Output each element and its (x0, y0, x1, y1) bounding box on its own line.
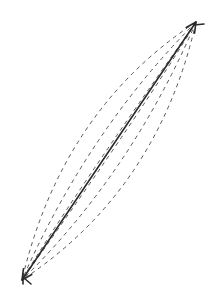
diagram-svg (0, 0, 224, 302)
main-line (22, 22, 196, 280)
diagram-canvas (0, 0, 224, 302)
bottom-arrowhead-icon (22, 269, 32, 284)
